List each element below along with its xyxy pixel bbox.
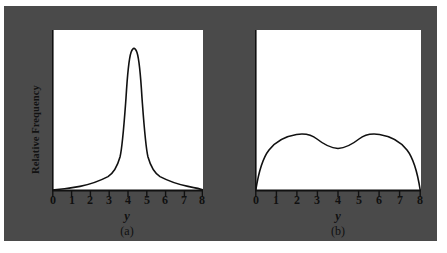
tick-label: 1 [273,193,279,207]
tick-label: 4 [335,193,341,207]
x-axis-ticks-a: 0 1 2 3 4 5 6 7 8 [52,193,203,207]
tick-label: 7 [397,193,403,207]
x-axis-label-a: y [47,209,207,224]
curve-svg-b [255,30,421,198]
tick-label: 7 [181,193,187,207]
tick-label: 5 [144,193,150,207]
tick-label: 4 [125,193,131,207]
x-axis-label-b: y [258,209,418,224]
tick-label: 2 [87,193,93,207]
tick-label: 8 [199,193,205,207]
x-axis-ticks-b: 0 1 2 3 4 5 6 7 8 [255,193,421,207]
tick-label: 3 [106,193,112,207]
tick-label: 8 [417,193,423,207]
panel-caption-b: (b) [258,224,418,239]
y-axis-label-a: Relative Frequency [30,85,41,174]
figure-screenshot: Relative Frequency 0 1 [0,0,447,253]
figure-background-plate: Relative Frequency 0 1 [4,6,437,241]
tick-label: 0 [50,193,56,207]
tick-label: 0 [253,193,259,207]
curve-svg-a [52,30,203,198]
tick-label: 6 [162,193,168,207]
tick-label: 6 [376,193,382,207]
panel-caption-a: (a) [47,224,207,239]
tick-label: 3 [314,193,320,207]
tick-label: 1 [69,193,75,207]
tick-label: 5 [356,193,362,207]
tick-label: 2 [294,193,300,207]
